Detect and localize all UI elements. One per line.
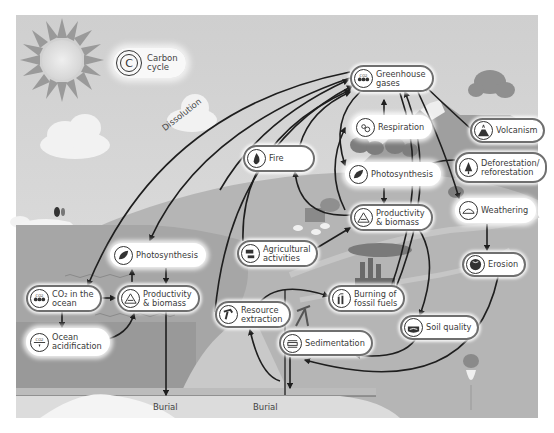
globe-icon: [466, 255, 485, 274]
node-fire[interactable]: Fire: [243, 145, 315, 172]
node-weathering[interactable]: Weathering: [455, 198, 536, 223]
node-deforestation[interactable]: Deforestation/reforestation: [455, 152, 547, 183]
sun-illustration: [20, 18, 104, 102]
node-photosynthesis-land[interactable]: Photosynthesis: [345, 162, 441, 186]
burial-label-land: Burial: [253, 402, 278, 412]
node-productivity-ocean[interactable]: Productivity& biomass: [117, 285, 200, 312]
sediment-layers-icon: [283, 334, 302, 353]
fire-icon: [247, 149, 266, 168]
node-sedimentation[interactable]: Sedimentation: [279, 330, 373, 356]
svg-text:CO2: CO2: [36, 337, 45, 341]
node-photosynthesis-ocean[interactable]: Photosynthesis: [110, 243, 206, 267]
co2-molecule-icon: CO2: [30, 289, 49, 308]
ocean-co2-icon: CO2: [30, 333, 49, 352]
volcano-icon: [474, 121, 493, 140]
leaf-icon: [114, 246, 133, 265]
carbon-cycle-icon: C: [116, 50, 142, 76]
node-co2-in-ocean[interactable]: CO2 CO₂ in theocean: [26, 285, 102, 312]
burial-label-ocean: Burial: [153, 402, 178, 412]
co2-molecule-icon: CO2: [354, 69, 373, 88]
carbon-cycle-title: C Carbon cycle: [113, 48, 186, 78]
node-resource-extraction[interactable]: Resourceextraction: [215, 301, 291, 328]
svg-text:CO2: CO2: [36, 294, 45, 298]
node-respiration[interactable]: Respiration: [352, 115, 432, 139]
node-burning-fossil-fuels[interactable]: Burning offossil fuels: [328, 285, 405, 312]
smokestack-icon: [332, 289, 351, 308]
rock-weathering-icon: [459, 201, 478, 220]
tree-icon: [459, 158, 478, 177]
svg-text:CO2: CO2: [360, 74, 369, 78]
node-productivity-land[interactable]: Productivity& biomass: [350, 204, 433, 231]
node-ocean-acidification[interactable]: CO2 Oceanacidification: [26, 328, 110, 356]
farm-icon: [241, 244, 260, 263]
biomass-pyramid-icon: [354, 208, 373, 227]
oil-pump-icon: [219, 305, 238, 324]
soil-icon: [404, 318, 423, 337]
carbon-cycle-diagram: C Carbon cycle Dissolution CO2 Greenhous…: [0, 0, 554, 433]
node-erosion[interactable]: Erosion: [462, 252, 526, 277]
leaf-icon: [349, 165, 368, 184]
title-line-2: cycle: [147, 63, 178, 72]
node-agricultural-activities[interactable]: Agriculturalactivities: [237, 240, 318, 267]
biomass-pyramid-icon: [121, 289, 140, 308]
node-greenhouse-gases[interactable]: CO2 Greenhousegases: [350, 65, 434, 92]
node-volcanism[interactable]: Volcanism: [470, 118, 545, 143]
node-soil-quality[interactable]: Soil quality: [400, 315, 479, 340]
respiration-icon: [356, 118, 375, 137]
